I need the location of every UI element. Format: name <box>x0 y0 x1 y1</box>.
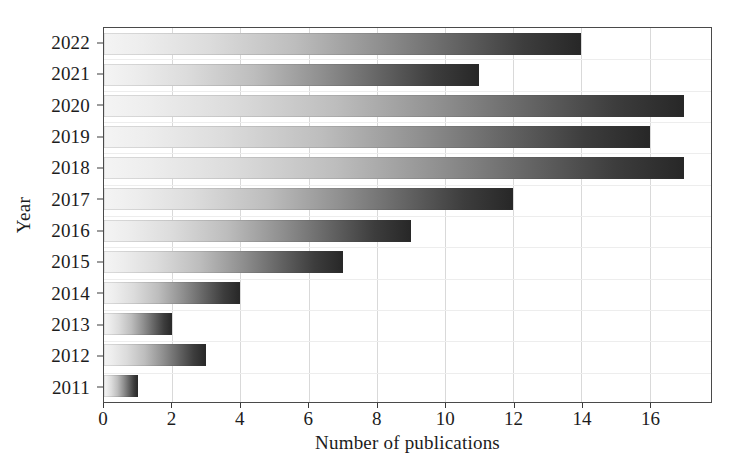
y-axis-tick-labels: 2022202120202019201820172016201520142013… <box>34 27 96 403</box>
y-axis-tick-label: 2015 <box>51 252 90 271</box>
x-axis-tick-label: 6 <box>304 409 314 428</box>
y-axis-tick-label: 2012 <box>51 346 90 365</box>
bar <box>104 282 240 304</box>
y-axis-tick-row: 2014 <box>34 278 96 309</box>
bar-row <box>104 215 711 246</box>
bar <box>104 188 513 210</box>
x-axis-tick-label: 0 <box>98 409 108 428</box>
bar-row <box>104 309 711 340</box>
bar <box>104 313 172 335</box>
bar-row <box>104 59 711 90</box>
bar-row <box>104 246 711 277</box>
bar-chart-figure: Year 20222021202020192018201720162015201… <box>0 0 735 474</box>
bar <box>104 375 138 397</box>
bar <box>104 126 650 148</box>
y-axis-tick-row: 2019 <box>34 121 96 152</box>
x-axis-tick-label: 12 <box>504 409 523 428</box>
bar-row <box>104 371 711 402</box>
bar-row <box>104 28 711 59</box>
bar <box>104 251 343 273</box>
y-axis-tick-row: 2011 <box>34 372 96 403</box>
y-axis-tick-label: 2019 <box>51 127 90 146</box>
y-axis-tick-row: 2018 <box>34 152 96 183</box>
y-axis-tick-label: 2018 <box>51 158 90 177</box>
y-axis-title-text: Year <box>13 197 35 234</box>
plot-area <box>103 27 712 403</box>
bar <box>104 95 684 117</box>
x-axis-title: Number of publications <box>103 432 712 454</box>
y-axis-tick-row: 2016 <box>34 215 96 246</box>
y-axis-tick-row: 2012 <box>34 340 96 371</box>
bar <box>104 344 206 366</box>
y-axis-tick-label: 2016 <box>51 221 90 240</box>
y-axis-tick-row: 2022 <box>34 27 96 58</box>
bar-row <box>104 122 711 153</box>
x-axis-tick-label: 10 <box>436 409 455 428</box>
bar <box>104 157 684 179</box>
bar <box>104 33 581 55</box>
x-axis-tick-label: 4 <box>235 409 245 428</box>
bar-row <box>104 184 711 215</box>
bar-row <box>104 277 711 308</box>
y-axis-tick-label: 2013 <box>51 315 90 334</box>
bar-series <box>104 28 711 402</box>
bar <box>104 64 479 86</box>
bar-row <box>104 153 711 184</box>
x-axis-tick-label: 2 <box>167 409 177 428</box>
bar <box>104 220 411 242</box>
bar-row <box>104 340 711 371</box>
y-axis-tick-label: 2014 <box>51 284 90 303</box>
y-axis-tick-label: 2021 <box>51 64 90 83</box>
bar-row <box>104 90 711 121</box>
x-axis-tick-label: 8 <box>372 409 382 428</box>
x-axis-tick-label: 16 <box>641 409 660 428</box>
y-axis-tick-row: 2017 <box>34 184 96 215</box>
y-axis-tick-label: 2020 <box>51 96 90 115</box>
y-axis-tick-row: 2013 <box>34 309 96 340</box>
y-axis-tick-row: 2015 <box>34 246 96 277</box>
x-axis-tick-label: 14 <box>572 409 591 428</box>
y-axis-tick-row: 2021 <box>34 58 96 89</box>
y-axis-tick-row: 2020 <box>34 90 96 121</box>
y-axis-tick-label: 2017 <box>51 190 90 209</box>
y-axis-tick-label: 2022 <box>51 33 90 52</box>
y-axis-tick-label: 2011 <box>52 378 90 397</box>
